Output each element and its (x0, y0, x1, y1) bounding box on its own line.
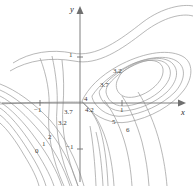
contour-label-5: 5 (112, 119, 116, 126)
x-axis-label: x (181, 108, 185, 117)
axis-lines (2, 9, 178, 182)
y-axis-label: y (70, 5, 74, 14)
contour-curve-bottom-1 (90, 126, 96, 186)
y-axis-arrowhead (77, 6, 84, 14)
contour-curves (0, 5, 193, 186)
x-axis-arrowhead (178, 100, 186, 107)
contour-plot-figure: y x −1 1 1 −1 3.2 3.7 4 4.2 5 6 3.7 3.2 … (0, 0, 193, 186)
contour-curve-level-m2-left (0, 123, 39, 186)
contour-curve-level-5 (104, 100, 132, 186)
x-tick-label-pos1: 1 (120, 107, 124, 114)
y-tick-label-pos1: 1 (69, 52, 73, 59)
contour-label-0: 0 (35, 148, 39, 155)
contour-curve-level-37-left (0, 84, 84, 186)
contour-label-3-7-upper: 3.7 (100, 82, 109, 89)
contour-label-3-2-upper: 3.2 (113, 68, 122, 75)
contour-label-3-7-lower: 3.7 (64, 109, 73, 116)
contour-curve-loop-1-innermost (116, 60, 163, 97)
contour-curve-level-m1-left (0, 115, 46, 186)
contour-curve-outer-1 (13, 5, 193, 63)
contour-curve-bottom-2 (96, 132, 103, 186)
contour-plot-canvas (0, 0, 193, 186)
contour-label-6: 6 (126, 127, 130, 134)
contour-label-2: 2 (48, 134, 52, 141)
contour-curve-level-6b (138, 92, 167, 186)
x-tick-label-neg1: −1 (34, 107, 41, 114)
contour-label-4-2: 4.2 (85, 107, 94, 114)
y-tick-label-neg1: −1 (66, 144, 73, 151)
contour-curve-level-6 (122, 96, 149, 186)
contour-label-3-2-lower: 3.2 (58, 120, 67, 127)
contour-label-1: 1 (42, 141, 46, 148)
contour-label-4: 4 (84, 96, 88, 103)
